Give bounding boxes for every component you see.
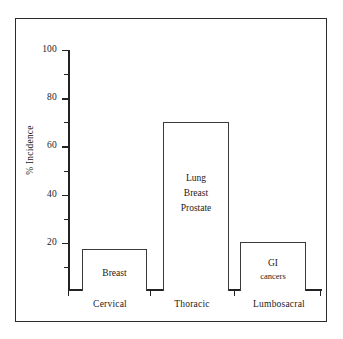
bar-lumbosacral-annotation: GI cancers: [241, 256, 305, 284]
bar-lumbosacral-label-line-2: cancers: [241, 270, 305, 283]
bar-lumbosacral: GI cancers: [240, 242, 306, 292]
y-axis-minor-tick-90: [64, 74, 69, 75]
x-axis-tick-2: [234, 289, 235, 296]
y-axis-minor-tick-70: [64, 122, 69, 123]
y-axis-tick-label-40: 40: [47, 190, 57, 200]
bar-thoracic-label-line-2: Breast: [164, 186, 228, 201]
y-axis-tick-label-20: 20: [47, 238, 57, 248]
y-axis-tick-label-100: 100: [42, 45, 57, 55]
bar-cervical-label-line-1: Breast: [83, 266, 146, 281]
x-axis-tick-3: [320, 289, 321, 296]
bar-thoracic-label-line-1: Lung: [164, 171, 228, 186]
x-axis-label-thoracic: Thoracic: [174, 300, 209, 310]
x-axis-tick-1: [150, 289, 151, 296]
y-axis-tick-20: 20: [62, 243, 69, 244]
bar-cervical-annotation: Breast: [83, 266, 146, 281]
y-axis-tick-40: 40: [62, 195, 69, 196]
bar-thoracic-annotation: Lung Breast Prostate: [164, 171, 228, 215]
y-axis-tick-label-60: 60: [47, 141, 57, 151]
y-axis-tick-60: 60: [62, 146, 69, 147]
bar-thoracic-label-line-3: Prostate: [164, 201, 228, 216]
y-axis-tick-label-80: 80: [47, 93, 57, 103]
x-axis-label-cervical: Cervical: [93, 300, 127, 310]
y-axis-minor-tick-30: [64, 219, 69, 220]
y-axis-tick-80: 80: [62, 98, 69, 99]
y-axis-tick-100: 100: [62, 50, 69, 51]
bar-lumbosacral-label-line-1: GI: [241, 256, 305, 271]
bar-cervical: Breast: [82, 249, 147, 291]
plot-area: 100 80 60 40 20 Cervical Thoracic Lumbos…: [68, 50, 322, 291]
x-axis-label-lumbosacral: Lumbosacral: [253, 300, 305, 310]
y-axis-title: % Incidence: [25, 125, 35, 174]
bar-thoracic: Lung Breast Prostate: [163, 122, 229, 291]
bar-chart-figure: 100 80 60 40 20 Cervical Thoracic Lumbos…: [0, 0, 343, 339]
x-axis-tick-0: [68, 289, 69, 296]
y-axis-minor-tick-10: [64, 267, 69, 268]
y-axis-minor-tick-50: [64, 171, 69, 172]
